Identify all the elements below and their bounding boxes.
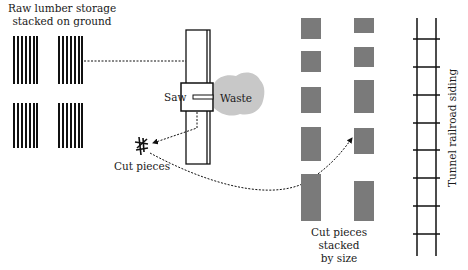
- lumber-stack: [59, 103, 82, 148]
- cut-pieces-icon: [135, 137, 148, 155]
- lumber-stack: [14, 36, 37, 84]
- diagram-svg: Raw lumber storage stacked on ground: [0, 0, 468, 270]
- stacked-label-line2: stacked: [318, 239, 359, 251]
- raw-storage-label-line2: stacked on ground: [12, 15, 111, 27]
- stack: [354, 80, 374, 113]
- stack: [301, 127, 321, 161]
- stack: [301, 87, 321, 113]
- stack: [301, 18, 321, 39]
- railroad-siding: [413, 18, 440, 256]
- waste-label: Waste: [220, 92, 252, 104]
- stack: [354, 128, 374, 154]
- lumber-stack: [14, 103, 37, 148]
- lumber-stack: [59, 36, 82, 84]
- raw-storage-label-line1: Raw lumber storage: [8, 2, 116, 14]
- stacked-label-line1: Cut pieces: [311, 226, 367, 238]
- saw-label: Saw: [164, 91, 186, 103]
- stack: [354, 47, 374, 67]
- stack: [301, 174, 321, 221]
- stack: [354, 181, 374, 221]
- railroad-label: Tunnel railroad siding: [446, 69, 458, 187]
- raw-lumber-storage: [14, 36, 82, 148]
- stack: [354, 18, 374, 33]
- cut-pieces-label: Cut pieces: [114, 160, 170, 172]
- stack: [301, 51, 321, 72]
- flow-arrow-cut-pieces-to-stacks: [150, 138, 352, 190]
- flow-arrow-storage-to-saw: [84, 61, 197, 82]
- stacked-label-line3: by size: [321, 252, 357, 264]
- cut-pieces-stacked-by-size: [301, 18, 374, 221]
- lumber-plant-layout-diagram: Raw lumber storage stacked on ground: [0, 0, 468, 270]
